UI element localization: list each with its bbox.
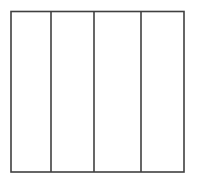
figure-background — [0, 0, 197, 184]
figure-container — [0, 0, 197, 184]
figure-line-drawing — [0, 0, 197, 184]
